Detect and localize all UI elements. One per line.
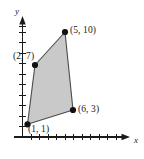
point-label-6-3: (6, 3) [78, 105, 99, 115]
point-label-5-10: (5, 10) [70, 26, 96, 36]
point-label-1-1: (1, 1) [28, 125, 49, 135]
vertex-point-6-3 [70, 107, 76, 113]
y-axis-label: y [14, 6, 19, 16]
coordinate-plane-svg: y x [0, 0, 144, 159]
vertex-point-2-7 [32, 62, 38, 68]
vertex-point-5-10 [62, 29, 68, 35]
shaded-quadrilateral [28, 32, 74, 124]
point-label-2-7: (2, 7) [13, 52, 34, 62]
x-axis-label: x [133, 135, 138, 145]
y-axis-arrow-icon [19, 16, 25, 25]
figure-container: y x (5, 10) (2, 7) (6, 3) (1, 1) [0, 0, 144, 159]
x-axis-arrow-icon [122, 134, 131, 140]
